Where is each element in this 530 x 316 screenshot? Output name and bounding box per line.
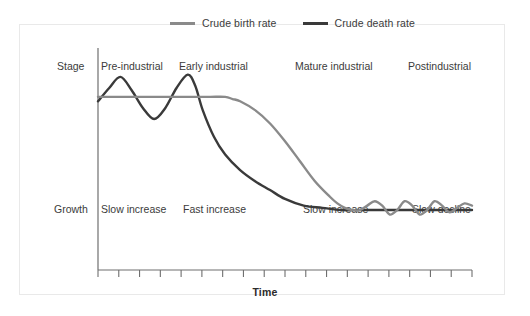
death-rate-swatch xyxy=(303,22,328,25)
legend-item-birth-rate: Crude birth rate xyxy=(170,17,277,29)
chart-legend: Crude birth rate Crude death rate xyxy=(170,14,415,32)
growth-label-slow-increase-1: Slow increase xyxy=(101,203,166,215)
stage-label-mature-industrial: Mature industrial xyxy=(295,60,373,72)
stage-row-label: Stage xyxy=(57,60,84,72)
demographic-transition-figure: Crude birth rate Crude death rate Stage … xyxy=(0,0,530,316)
stage-label-postindustrial: Postindustrial xyxy=(408,60,471,72)
legend-label-birth-rate: Crude birth rate xyxy=(202,17,277,29)
growth-label-fast-increase: Fast increase xyxy=(183,203,246,215)
growth-label-slow-increase-2: Slow increase xyxy=(303,203,368,215)
stage-label-pre-industrial: Pre-industrial xyxy=(101,60,163,72)
legend-item-death-rate: Crude death rate xyxy=(303,17,415,29)
x-axis-title: Time xyxy=(0,286,530,298)
growth-label-slow-decline: Slow decline xyxy=(412,203,471,215)
stage-label-early-industrial: Early industrial xyxy=(179,60,248,72)
growth-row-label: Growth xyxy=(54,203,88,215)
birth-rate-swatch xyxy=(170,22,195,25)
legend-label-death-rate: Crude death rate xyxy=(335,17,415,29)
